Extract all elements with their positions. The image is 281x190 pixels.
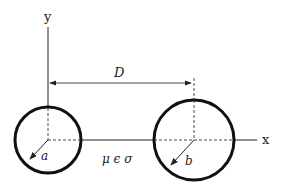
medium-label: μ ϵ σ (102, 152, 133, 166)
radius-b-label: b (185, 154, 193, 168)
y-axis-label: y (43, 9, 52, 24)
two-conductor-diagram: y D a x b μ ϵ σ (0, 0, 281, 190)
distance-label: D (113, 65, 125, 80)
radius-a-label: a (41, 149, 48, 163)
x-axis-label: x (262, 132, 270, 147)
